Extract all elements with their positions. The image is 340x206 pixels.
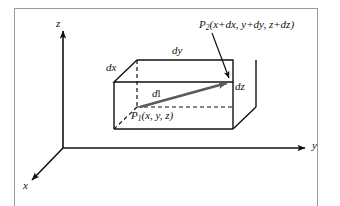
axis-x xyxy=(32,148,63,180)
point-label-p2: P2(x+dx, y+dy, z+dz) xyxy=(199,19,294,31)
point-p1-name: P xyxy=(131,109,138,121)
point-p2-coords: (x+dx, y+dy, z+dz) xyxy=(209,18,294,30)
edge-label-dz: dz xyxy=(235,81,245,92)
point-p1-coords: (x, y, z) xyxy=(141,109,173,121)
vector-label-l: l xyxy=(158,87,161,99)
edge-label-dx: dx xyxy=(106,62,116,73)
axis-label-y: y xyxy=(312,140,317,151)
vector-label-dl: dl xyxy=(152,88,161,99)
point-p2-name: P xyxy=(199,18,206,30)
axis-label-z: z xyxy=(56,18,60,29)
figure-container: z y x dx dy dz dl P1(x, y, z) P2(x+dx, y… xyxy=(0,0,340,206)
point-label-p1: P1(x, y, z) xyxy=(131,110,173,122)
axis-label-x: x xyxy=(23,180,28,191)
leader-line-p2 xyxy=(212,33,229,78)
edge-label-dy: dy xyxy=(172,45,182,56)
